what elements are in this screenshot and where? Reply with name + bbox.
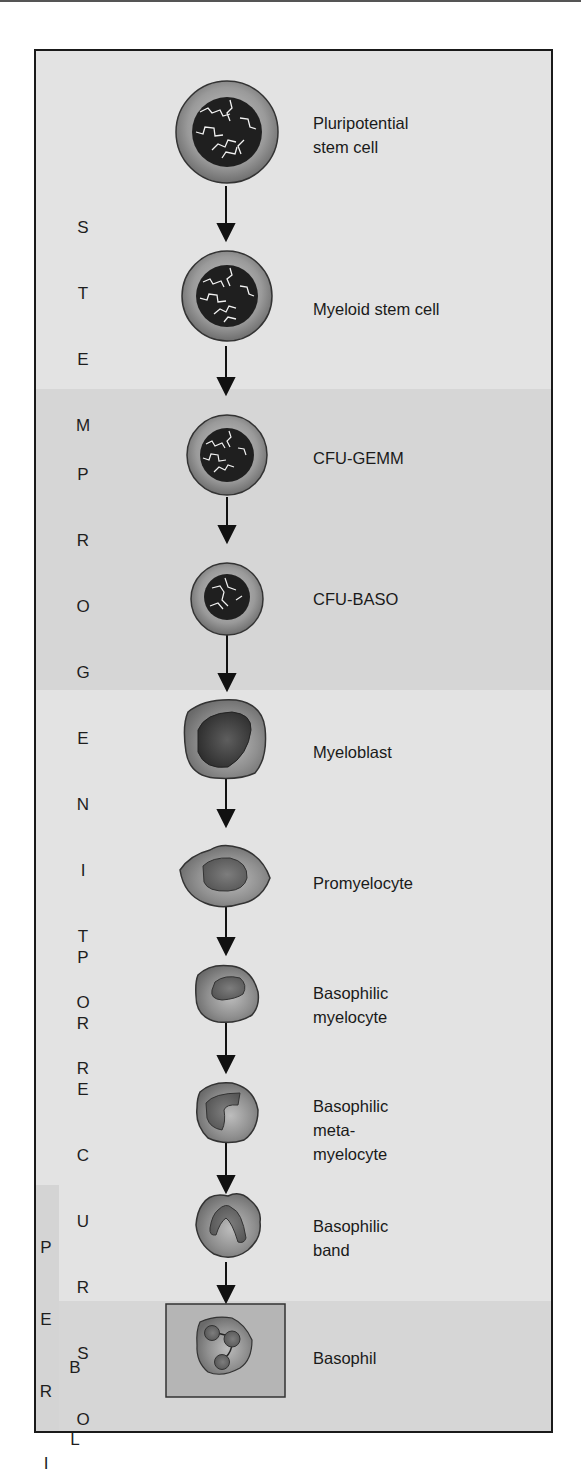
lineage-drawing [0, 0, 581, 1474]
cell-basophilic-myelocyte-icon [196, 965, 259, 1022]
cell-basophil-icon [166, 1304, 285, 1397]
cell-basophilic-band-icon [196, 1194, 260, 1257]
cell-myeloid-stem-icon [182, 251, 272, 341]
cell-pluripotential-icon [176, 81, 278, 183]
cell-myeloblast-icon [184, 700, 265, 779]
cell-basophilic-metamyelocyte-icon [197, 1083, 258, 1143]
cell-promyelocyte-icon [180, 845, 270, 906]
cell-cfu-baso-icon [191, 563, 263, 635]
cell-cfu-gemm-icon [187, 415, 267, 495]
